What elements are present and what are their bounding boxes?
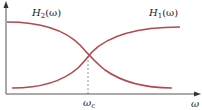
x-axis-arrow-icon (194, 92, 201, 97)
h2-label: H2(ω) (32, 8, 61, 20)
omega-label: ω (191, 98, 199, 109)
h2-label-main: H (32, 7, 41, 18)
x-axis-label: ω (191, 99, 199, 109)
omega-c-main: ω (83, 97, 91, 108)
h1-label-arg: (ω) (162, 7, 178, 18)
omega-c-label: ωc (83, 98, 95, 110)
h1-curve (12, 27, 180, 88)
y-axis-arrow-icon (4, 1, 9, 8)
h1-label-main: H (149, 7, 158, 18)
omega-c-sub: c (91, 102, 95, 110)
h1-label: H1(ω) (149, 8, 178, 20)
h2-label-arg: (ω) (45, 7, 61, 18)
